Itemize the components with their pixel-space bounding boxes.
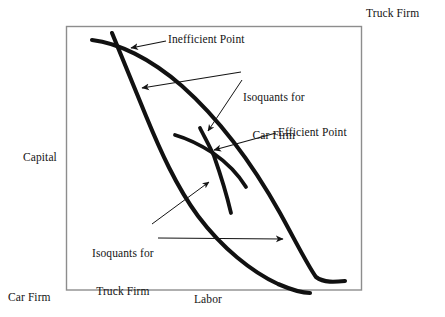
annotation-isoquants-car-firm-line1: Isoquants for: [243, 91, 305, 104]
axis-label-labor: Labor: [194, 293, 222, 306]
annotation-isoquants-truck-firm: Isoquants for Truck Firm: [92, 222, 154, 317]
car-firm-isoquant-inner: [200, 128, 231, 213]
annotation-efficient-point: Efficient Point: [278, 126, 347, 139]
leader-inefficient-point: [131, 41, 166, 48]
annotation-isoquants-truck-firm-line1: Isoquants for: [92, 247, 154, 260]
leader-isoquants-car-inner: [208, 80, 242, 131]
leader-isoquants-car-upper: [142, 72, 241, 88]
annotation-isoquants-truck-firm-line2: Truck Firm: [92, 285, 154, 298]
leader-isoquants-truck-outer: [158, 238, 283, 239]
edgeworth-box-diagram: Truck Firm Car Firm Capital Labor Ineffi…: [0, 0, 445, 317]
corner-label-car-firm: Car Firm: [8, 291, 51, 304]
corner-label-truck-firm: Truck Firm: [366, 7, 419, 20]
axis-label-capital: Capital: [23, 151, 57, 164]
diagram-canvas: [0, 0, 445, 317]
annotation-isoquants-car-firm: Isoquants for Car Firm: [243, 66, 305, 166]
annotation-inefficient-point: Inefficient Point: [168, 33, 245, 46]
